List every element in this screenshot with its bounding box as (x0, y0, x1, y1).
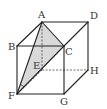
vertex-label-c: C (65, 46, 73, 57)
shaded-triangle-acf (17, 22, 64, 94)
solid-edges (17, 22, 88, 94)
cube-diagram: A D B C E H F G (0, 0, 107, 109)
vertex-label-a: A (37, 9, 46, 20)
vertex-label-b: B (8, 41, 15, 52)
edge-gh (64, 70, 88, 94)
vertex-label-d: D (90, 10, 98, 21)
edge-cd (64, 22, 88, 46)
vertex-label-f: F (8, 90, 15, 101)
vertex-label-e: E (33, 60, 40, 71)
vertex-label-h: H (90, 65, 99, 76)
vertex-label-g: G (60, 96, 68, 107)
cube-svg: A D B C E H F G (0, 0, 107, 109)
